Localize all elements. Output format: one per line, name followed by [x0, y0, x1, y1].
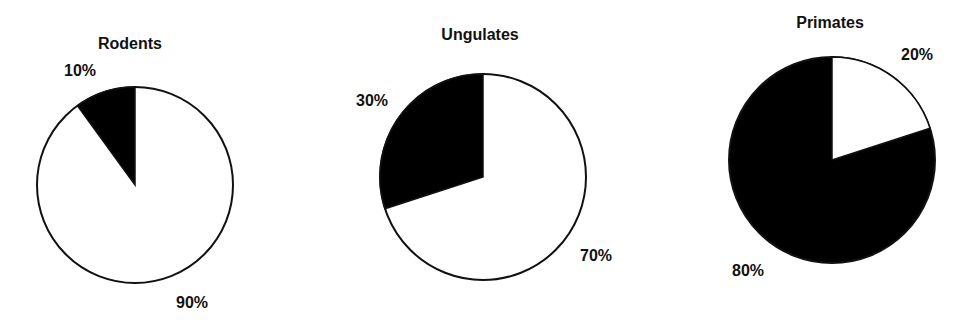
rodents-light-label: 90% — [176, 294, 208, 311]
ungulates-pie-chart: Ungulates 30% 70% — [356, 26, 612, 280]
rodents-dark-label: 10% — [64, 62, 96, 79]
primates-title: Primates — [796, 14, 864, 31]
ungulates-title: Ungulates — [441, 26, 518, 43]
primates-light-label: 20% — [901, 46, 933, 63]
ungulates-light-label: 70% — [580, 247, 612, 264]
pie-charts-figure: Rodents 10% 90% Ungulates 30% 70% Primat… — [0, 0, 968, 326]
ungulates-dark-label: 30% — [356, 92, 388, 109]
primates-dark-label: 80% — [732, 262, 764, 279]
rodents-title: Rodents — [98, 35, 162, 52]
primates-pie-chart: Primates 20% 80% — [729, 14, 935, 279]
rodents-pie-chart: Rodents 10% 90% — [37, 35, 233, 311]
